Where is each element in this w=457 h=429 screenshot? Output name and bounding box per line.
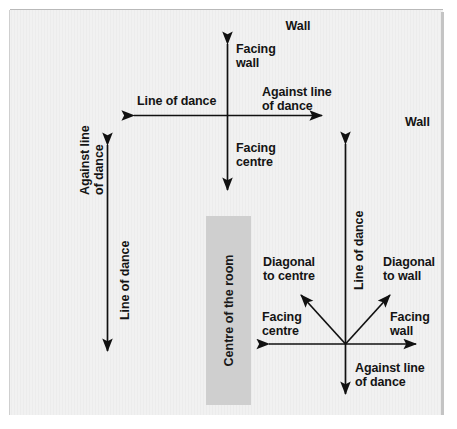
centre-of-room-label: Centre of the room <box>206 216 251 405</box>
left-axis-down-label: Line of dance <box>118 241 132 320</box>
wall-label-top: Wall <box>268 19 328 33</box>
star-left-label: Facing centre <box>262 310 302 338</box>
panel-right-edge <box>441 12 444 415</box>
star-right-label: Facing wall <box>390 310 430 338</box>
cross-top-right-label: Against line of dance <box>262 85 332 113</box>
star-up-label: Line of dance <box>352 211 366 290</box>
dance-floor-diagram: Centre of the room Wall Wall Facing wall… <box>0 0 457 429</box>
left-axis-up-label: Against line of dance <box>78 125 106 195</box>
wall-label-right: Wall <box>405 115 430 129</box>
star-down-label: Against line of dance <box>355 361 425 389</box>
cross-top-down-label: Facing centre <box>236 141 276 169</box>
cross-top-up-label: Facing wall <box>236 42 276 70</box>
cross-top-left-label: Line of dance <box>137 94 216 108</box>
star-diagonal-up-right-label: Diagonal to wall <box>383 255 435 283</box>
star-diagonal-up-left-label: Diagonal to centre <box>263 255 315 283</box>
